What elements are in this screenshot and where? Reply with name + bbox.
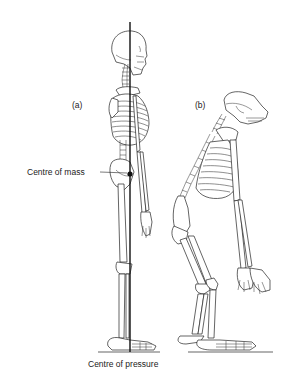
centre-of-pressure-label: Centre of pressure: [88, 360, 158, 369]
panel-b-label: (b): [195, 101, 205, 110]
panel-a-label: (a): [72, 101, 82, 110]
figure-canvas: [0, 0, 293, 380]
human-skeleton-illustration: [98, 31, 160, 352]
centre-of-mass-label: Centre of mass: [27, 168, 85, 177]
centre-of-mass-dot: [127, 171, 132, 176]
chimpanzee-skeleton-illustration: [172, 92, 273, 352]
